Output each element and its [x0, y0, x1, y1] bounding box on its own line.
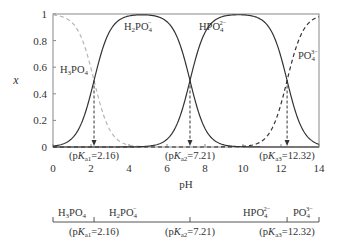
x-tick-label: 0	[50, 162, 56, 174]
y-tick-label: 0.6	[33, 61, 47, 73]
y-tick-label: 0.2	[33, 114, 47, 126]
curve-h2po4-	[53, 15, 319, 147]
curve-hpo4-2-	[53, 15, 319, 147]
y-tick-label: 1	[42, 8, 48, 20]
plot-area	[53, 14, 319, 147]
pka-label: (pKa2=7.21)	[165, 150, 216, 163]
curve-h3po4	[53, 15, 319, 147]
x-tick-label: 10	[238, 162, 250, 174]
x-tick-label: 8	[202, 162, 208, 174]
y-axis-label: x	[12, 73, 19, 87]
arrow-down-icon	[92, 140, 97, 146]
species-label: H2PO4−	[109, 205, 138, 220]
x-tick-label: 6	[164, 162, 170, 174]
x-axis-label: pH	[179, 178, 193, 190]
y-tick-label: 0	[42, 141, 48, 153]
plot-frame	[53, 14, 319, 147]
species-label: PO43−	[293, 205, 313, 220]
curve-labels: H3PO4H2PO4−HPO42−PO43−	[60, 19, 318, 77]
pka-label: (pKa1=2.16)	[69, 150, 120, 163]
phosphate-speciation-chart: (pKa1=2.16)(pKa2=7.21)(pKa3=12.32) H3PO4…	[0, 0, 337, 246]
species-curves	[53, 15, 319, 147]
species-label: H2PO4−	[124, 19, 153, 34]
x-tick-label: 14	[314, 162, 326, 174]
axis-labels: 00.20.40.60.8102468101214pHx	[12, 8, 325, 190]
species-label: H3PO4	[58, 207, 87, 220]
arrow-down-icon	[187, 140, 192, 146]
x-tick-label: 4	[126, 162, 132, 174]
x-tick-label: 12	[276, 162, 287, 174]
species-label: H3PO4	[60, 64, 89, 77]
pka-label: (pKa3=12.32)	[259, 150, 315, 163]
curve-po4-3-	[53, 17, 319, 147]
species-label: HPO42−	[199, 19, 227, 34]
arrow-down-icon	[285, 140, 290, 146]
y-tick-label: 0.8	[33, 35, 47, 47]
number-line-pka-label: (pKa2=7.21)	[165, 226, 216, 239]
species-label: HPO42−	[243, 205, 271, 220]
x-tick-label: 2	[88, 162, 94, 174]
number-line-pka-label: (pKa3=12.32)	[259, 226, 315, 239]
y-tick-label: 0.4	[33, 88, 47, 100]
species-label: PO43−	[298, 48, 318, 63]
species-number-line: H3PO4H2PO4−HPO42−PO43−(pKa1=2.16)(pKa2=7…	[53, 205, 319, 239]
number-line-pka-label: (pKa1=2.16)	[69, 226, 120, 239]
